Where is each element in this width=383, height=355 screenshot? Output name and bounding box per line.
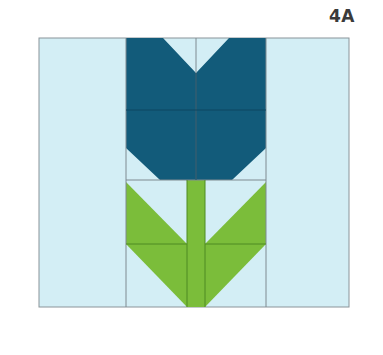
tulip-block-diagram [0, 0, 383, 355]
stem-piece [187, 180, 205, 307]
